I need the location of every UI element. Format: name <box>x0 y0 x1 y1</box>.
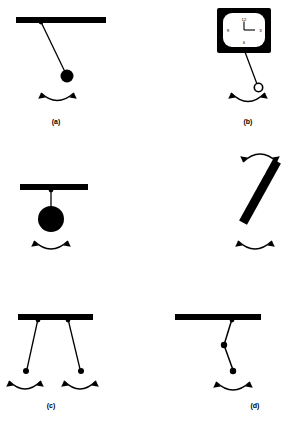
panel-e-pendulum-pair: (e) <box>0 290 144 415</box>
rod-pivot-hole <box>259 169 266 176</box>
pendulum-bob-right <box>78 368 84 374</box>
panel-a-simple-pendulum: (a) <box>0 0 144 118</box>
pendulum-string-left <box>27 319 38 369</box>
pendulum-figure: (a) 12 3 6 9 (b) <box>0 0 288 433</box>
pendulum-bob <box>61 70 74 83</box>
pendulum-bob-left <box>23 368 29 374</box>
pendulum-bob-large <box>38 206 64 232</box>
pivot-point-right <box>66 318 71 323</box>
pendulum-bob-ring <box>254 83 262 91</box>
panel-b-clock-pendulum: 12 3 6 9 (b) <box>144 0 288 118</box>
rigid-rod <box>239 159 281 225</box>
pivot-point-left <box>36 318 41 323</box>
swing-arc-arrow-bottom <box>235 241 275 249</box>
swing-arc-arrow <box>31 241 71 249</box>
swing-arc-arrow <box>38 93 77 101</box>
pivot-point <box>39 20 44 25</box>
swing-arc-arrow <box>228 93 268 102</box>
swing-arc-arrow <box>213 382 253 390</box>
support-bar <box>175 314 261 320</box>
pendulum-string-right <box>68 319 80 369</box>
panel-label-b: (b) <box>228 118 268 125</box>
pivot-point <box>49 188 54 193</box>
panel-f-double-pendulum: (f) <box>144 290 288 415</box>
pendulum-segment-upper <box>224 319 232 345</box>
pendulum-segment-lower <box>224 345 233 370</box>
swing-arc-arrow-left <box>6 381 44 389</box>
panel-label-a: (a) <box>36 118 76 125</box>
pendulum-bob <box>230 368 236 374</box>
pendulum-string <box>41 22 66 74</box>
pendulum-string <box>245 52 257 84</box>
support-bar <box>20 184 88 190</box>
support-bar <box>18 314 93 320</box>
pendulum-joint-mass <box>221 342 227 348</box>
panel-d-physical-pendulum-rod: (d) <box>144 140 288 268</box>
panel-c-large-ball-pendulum: (c) <box>0 140 144 268</box>
clock-numeral-12: 12 <box>242 17 247 22</box>
support-bar <box>16 17 106 23</box>
pivot-point <box>230 318 235 323</box>
swing-arc-arrow-right <box>61 381 99 389</box>
